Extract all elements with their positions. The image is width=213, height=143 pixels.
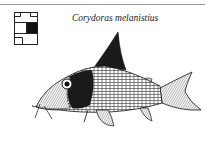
species-card: Corydoras melanistius [0, 0, 213, 143]
fish-illustration [0, 0, 213, 143]
